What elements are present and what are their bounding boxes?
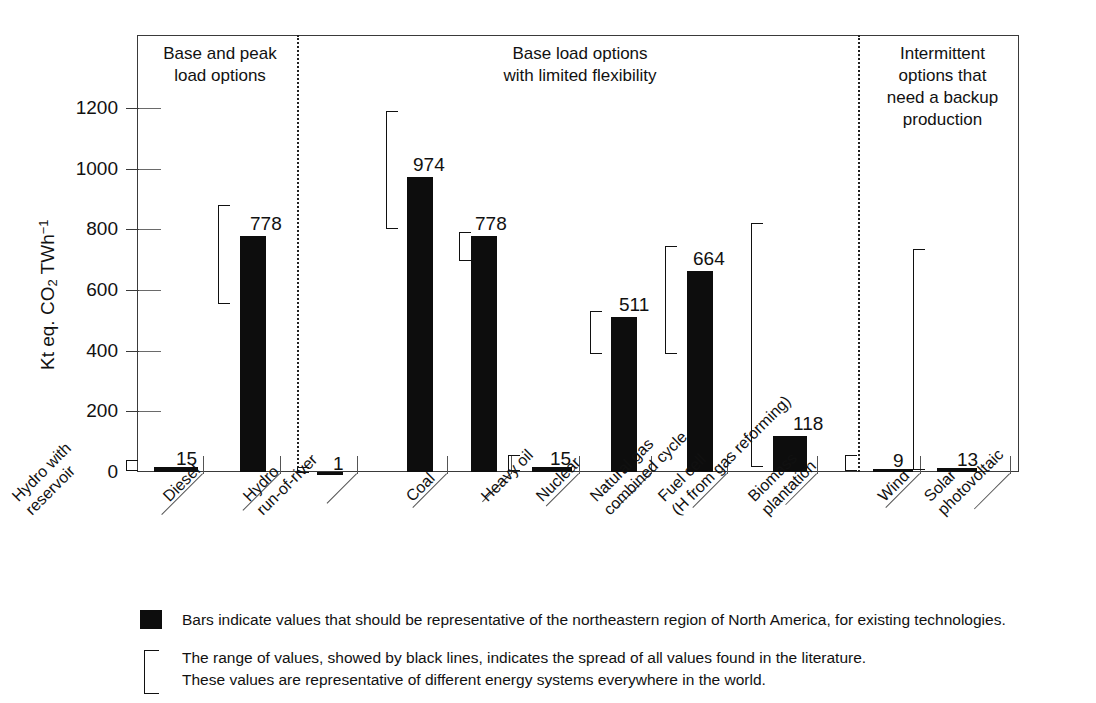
x-tick — [447, 456, 448, 474]
section-title-1-line2: load options — [150, 65, 290, 87]
section-title-2-line1: Base load options — [430, 43, 730, 65]
range-bracket — [751, 223, 752, 466]
range-bracket — [459, 232, 460, 261]
legend: Bars indicate values that should be repr… — [140, 608, 1080, 699]
bar-value-label: 118 — [793, 414, 823, 433]
range-bracket — [590, 311, 591, 353]
y-tick-label: 1000 — [56, 159, 118, 178]
y-tick-inner — [139, 229, 161, 230]
section-title-3-line4: production — [870, 109, 1015, 131]
legend-range-note-line1: The range of values, showed by black lin… — [182, 646, 1080, 669]
section-divider-2 — [858, 35, 860, 472]
bar-value-label: 1 — [333, 454, 344, 473]
range-bracket — [845, 455, 846, 471]
x-tick — [920, 456, 921, 474]
y-tick-label: 1200 — [56, 98, 118, 117]
section-title-1-line1: Base and peak — [150, 43, 290, 65]
section-title-2: Base load options with limited flexibili… — [430, 43, 730, 87]
y-tick-label: 800 — [56, 219, 118, 238]
range-bracket — [665, 246, 666, 354]
legend-row-bars: Bars indicate values that should be repr… — [140, 608, 1080, 632]
section-title-3-line1: Intermittent — [870, 43, 1015, 65]
y-tick-label: 400 — [56, 341, 118, 360]
x-label-leader — [327, 473, 357, 503]
range-bracket — [913, 249, 914, 470]
legend-range-bracket-icon — [144, 650, 159, 694]
bar[interactable] — [240, 236, 266, 472]
bar-value-label: 664 — [693, 249, 725, 268]
bar-value-label: 778 — [475, 214, 507, 233]
range-bracket — [218, 205, 219, 304]
y-tick-inner — [139, 169, 161, 170]
bar-value-label: 974 — [413, 155, 445, 174]
section-title-2-line2: with limited flexibility — [430, 65, 730, 87]
chart-canvas: Kt eq. CO2 TWh−1 020040060080010001200 B… — [0, 0, 1096, 703]
legend-range-note-line2: These values are representative of diffe… — [182, 668, 1080, 691]
y-tick-label: 200 — [56, 401, 118, 420]
y-tick-inner — [139, 290, 161, 291]
bar[interactable] — [407, 177, 433, 472]
x-category-label-line: Coal — [402, 469, 439, 506]
range-bracket — [126, 460, 127, 472]
bar-value-label: 511 — [619, 295, 649, 314]
range-bracket — [508, 455, 509, 471]
y-tick-inner — [139, 411, 161, 412]
y-tick-inner — [139, 108, 161, 109]
legend-bars-note: Bars indicate values that should be repr… — [182, 608, 1080, 631]
x-tick — [1010, 456, 1011, 474]
bar-value-label: 778 — [250, 214, 282, 233]
range-bracket — [386, 111, 387, 229]
legend-bar-swatch — [140, 610, 162, 629]
section-title-1: Base and peak load options — [150, 43, 290, 87]
y-tick-label: 600 — [56, 280, 118, 299]
section-title-3-line2: options that — [870, 65, 1015, 87]
section-divider-1 — [297, 35, 299, 472]
y-tick-inner — [139, 351, 161, 352]
x-tick — [357, 456, 358, 474]
x-category-label: Coal — [402, 469, 439, 506]
section-title-3: Intermittent options that need a backup … — [870, 43, 1015, 131]
x-tick — [203, 456, 204, 474]
section-title-3-line3: need a backup — [870, 87, 1015, 109]
bar[interactable] — [471, 236, 497, 472]
legend-row-range: The range of values, showed by black lin… — [140, 646, 1080, 691]
